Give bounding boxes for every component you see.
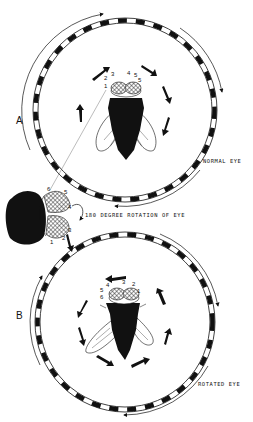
svg-text:3: 3 — [122, 279, 126, 285]
caption-rotated-eye: ROTATED EYE — [198, 381, 240, 387]
svg-text:1: 1 — [50, 239, 54, 245]
svg-text:5: 5 — [64, 189, 68, 195]
left-eye-b — [109, 288, 125, 300]
figure-drawing: 1 2 3 4 5 5 1 2 3 — [0, 0, 253, 422]
caption-normal-eye: NORMAL EYE — [203, 158, 241, 164]
svg-text:5: 5 — [100, 287, 104, 293]
right-eye-a — [125, 82, 141, 94]
left-eye-a — [111, 82, 127, 94]
fly-b — [86, 288, 153, 360]
svg-text:5: 5 — [138, 77, 142, 83]
svg-text:4: 4 — [68, 204, 72, 210]
svg-text:1: 1 — [104, 83, 108, 89]
svg-text:1: 1 — [137, 288, 141, 294]
svg-text:3: 3 — [111, 71, 115, 77]
caption-rotation: 180 DEGREE ROTATION OF EYE — [85, 212, 185, 218]
inset-lower-eye — [46, 216, 69, 238]
svg-text:4: 4 — [106, 282, 110, 288]
panel-label-a: A — [16, 115, 23, 126]
rotation-curl-arrow — [72, 204, 83, 220]
svg-text:2: 2 — [104, 75, 108, 81]
optomotor-figure: 1 2 3 4 5 5 1 2 3 — [0, 0, 253, 422]
to-panel-b-arrow — [66, 234, 74, 252]
svg-text:6: 6 — [100, 294, 104, 300]
svg-text:2: 2 — [132, 281, 136, 287]
svg-text:3: 3 — [68, 227, 72, 233]
panel-label-b: B — [16, 310, 23, 321]
inset-head — [6, 191, 83, 252]
svg-text:2: 2 — [62, 235, 66, 241]
svg-text:4: 4 — [127, 70, 131, 76]
